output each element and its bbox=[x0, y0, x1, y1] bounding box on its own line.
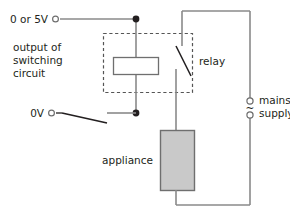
label-appliance: appliance bbox=[102, 154, 153, 166]
relay-contact-blade[interactable] bbox=[176, 46, 191, 76]
node-junction-top bbox=[133, 16, 140, 23]
relay-coil bbox=[114, 58, 159, 75]
manual-switch-blade[interactable] bbox=[62, 113, 107, 123]
terminal-ground[interactable] bbox=[49, 110, 55, 116]
ac-source-icon: ~ bbox=[246, 102, 255, 114]
label-relay: relay bbox=[199, 55, 225, 67]
label-ground: 0V bbox=[30, 107, 45, 119]
appliance-body bbox=[161, 131, 195, 191]
label-switching-circuit-line1: output of bbox=[13, 41, 61, 53]
label-switching-circuit-line3: circuit bbox=[13, 67, 45, 79]
terminal-logic-supply[interactable] bbox=[53, 16, 59, 22]
label-switching-circuit-line2: switching bbox=[13, 54, 63, 66]
circuit-schematic: 0 or 5V 0V output of switching circuit r… bbox=[0, 0, 290, 218]
label-logic-supply: 0 or 5V bbox=[10, 13, 49, 25]
label-mains-line1: mains bbox=[259, 94, 290, 106]
label-mains-line2: supply bbox=[259, 107, 290, 119]
relay-circuit-diagram: 0 or 5V 0V output of switching circuit r… bbox=[0, 0, 290, 218]
